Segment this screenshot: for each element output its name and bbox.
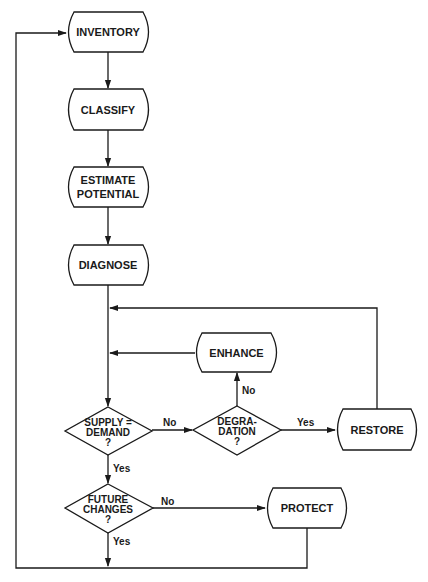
- label-supply-no: No: [163, 417, 176, 428]
- label-degradation-yes: Yes: [297, 417, 315, 428]
- decision-future-changes: FUTURE CHANGES ?: [65, 484, 153, 533]
- label-future-no: No: [161, 496, 174, 507]
- node-protect: PROTECT: [268, 488, 347, 528]
- node-diagnose-label: DIAGNOSE: [79, 259, 138, 271]
- node-estimate-line1: ESTIMATE: [81, 174, 136, 186]
- node-restore-label: RESTORE: [351, 424, 404, 436]
- node-inventory-label: INVENTORY: [76, 26, 140, 38]
- node-restore: RESTORE: [338, 409, 417, 450]
- decision-supply-line3: ?: [105, 437, 111, 448]
- decision-degradation: DEGRA- DATION ?: [193, 406, 281, 455]
- label-degradation-no: No: [242, 385, 255, 396]
- node-enhance: ENHANCE: [197, 333, 277, 372]
- node-estimate-line2: POTENTIAL: [77, 188, 140, 200]
- decision-future-line3: ?: [105, 514, 111, 525]
- node-diagnose: DIAGNOSE: [69, 245, 149, 285]
- decision-degradation-line3: ?: [234, 436, 240, 447]
- label-future-yes: Yes: [113, 536, 131, 547]
- node-classify: CLASSIFY: [69, 89, 149, 130]
- flowchart-diagram: INVENTORY CLASSIFY ESTIMATE POTENTIAL DI…: [0, 0, 428, 582]
- label-supply-yes: Yes: [113, 463, 131, 474]
- node-estimate-potential: ESTIMATE POTENTIAL: [69, 167, 149, 207]
- node-enhance-label: ENHANCE: [209, 347, 263, 359]
- node-classify-label: CLASSIFY: [81, 104, 136, 116]
- node-inventory: INVENTORY: [69, 12, 149, 52]
- node-protect-label: PROTECT: [281, 502, 334, 514]
- edge-protect-return: [108, 528, 307, 568]
- decision-supply-demand: SUPPLY = DEMAND ?: [65, 407, 152, 455]
